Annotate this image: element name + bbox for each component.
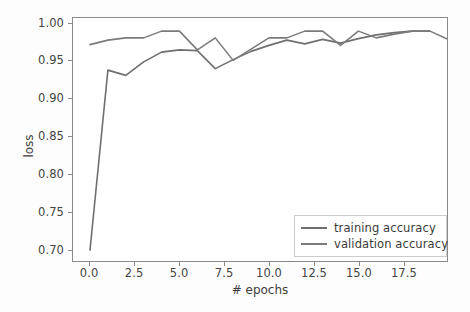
x-axis-tick-mark [269,262,270,266]
x-axis-tick-label: 0.0 [80,266,99,280]
x-axis-tick-label: 7.5 [215,266,234,280]
x-axis-tick-mark [314,262,315,266]
y-axis-tick-label: 0.90 [18,91,64,105]
y-axis-tick-mark [68,23,72,24]
x-axis-tick-mark [224,262,225,266]
legend: training accuracy validation accuracy [294,215,447,257]
y-axis-tick-label: 0.70 [18,243,64,257]
matplotlib-figure: loss # epochs training accuracy validati… [0,0,470,312]
legend-swatch-validation [301,243,327,245]
y-axis-tick-label: 0.80 [18,167,64,181]
x-axis-tick-label: 5.0 [170,266,189,280]
x-axis-tick-label: 10.0 [256,266,282,280]
y-axis-tick-mark [68,98,72,99]
y-axis-tick-mark [68,174,72,175]
y-axis-tick-mark [68,250,72,251]
x-axis-label: # epochs [72,283,448,297]
y-axis-tick-label: 0.95 [18,53,64,67]
y-axis-tick-mark [68,212,72,213]
legend-label-validation: validation accuracy [334,237,448,251]
y-axis-tick-mark [68,136,72,137]
x-axis-tick-label: 12.5 [301,266,327,280]
x-axis-tick-label: 2.5 [125,266,144,280]
legend-item-validation: validation accuracy [301,236,440,252]
legend-swatch-training [301,227,327,229]
y-axis-tick-mark [68,60,72,61]
x-axis-tick-label: 17.5 [391,266,417,280]
x-axis-tick-label: 15.0 [346,266,372,280]
x-axis-tick-mark [179,262,180,266]
x-axis-tick-mark [89,262,90,266]
x-axis-tick-mark [359,262,360,266]
y-axis-tick-label: 1.00 [18,16,64,30]
legend-label-training: training accuracy [334,221,436,235]
x-axis-tick-mark [134,262,135,266]
legend-item-training: training accuracy [301,220,440,236]
x-axis-tick-mark [404,262,405,266]
y-axis-tick-label: 0.75 [18,205,64,219]
y-axis-tick-label: 0.85 [18,129,64,143]
